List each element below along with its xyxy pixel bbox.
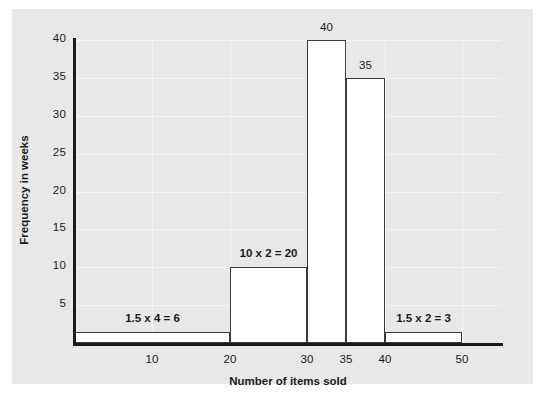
y-tick-20: 20 [32, 184, 66, 196]
x-axis-line [73, 343, 503, 346]
bar-top-label-bin-30-35: 40 [277, 21, 376, 33]
gridline-y-40 [75, 40, 501, 41]
bar-bin-20-30[interactable] [230, 267, 307, 343]
chart-panel: 1.5 x 4 = 610 x 2 = 2040351.5 x 2 = 3510… [12, 9, 533, 384]
bar-annotation-bin-40-50: 1.5 x 2 = 3 [345, 312, 502, 324]
x-tick-30: 30 [287, 353, 327, 365]
y-axis-line [73, 38, 76, 345]
x-tick-40: 40 [365, 353, 405, 365]
bar-top-label-bin-35-40: 35 [316, 59, 415, 71]
y-tick-5: 5 [32, 297, 66, 309]
chart-page: 1.5 x 4 = 610 x 2 = 2040351.5 x 2 = 3510… [0, 0, 545, 399]
bar-bin-35-40[interactable] [346, 78, 385, 343]
gridline-y-35 [75, 78, 501, 79]
gridline-y-25 [75, 154, 501, 155]
gridline-y-20 [75, 192, 501, 193]
gridline-x-40 [385, 40, 386, 343]
y-tick-25: 25 [32, 146, 66, 158]
y-tick-30: 30 [32, 108, 66, 120]
plot-area: 1.5 x 4 = 610 x 2 = 2040351.5 x 2 = 3510… [12, 9, 533, 384]
bar-bin-30-35[interactable] [307, 40, 346, 343]
gridline-y-30 [75, 116, 501, 117]
bar-bin-0-20[interactable] [75, 332, 230, 343]
y-tick-15: 15 [32, 221, 66, 233]
y-tick-35: 35 [32, 70, 66, 82]
gridline-y-15 [75, 229, 501, 230]
y-tick-40: 40 [32, 32, 66, 44]
x-axis-title: Number of items sold [75, 375, 501, 387]
x-tick-20: 20 [210, 353, 250, 365]
gridline-x-10 [152, 40, 153, 343]
y-tick-10: 10 [32, 259, 66, 271]
x-tick-10: 10 [132, 353, 172, 365]
y-axis-title: Frequency in weeks [18, 100, 30, 280]
gridline-x-50 [462, 40, 463, 343]
bar-bin-40-50[interactable] [385, 332, 462, 343]
x-tick-50: 50 [442, 353, 482, 365]
x-tick-35: 35 [326, 353, 366, 365]
